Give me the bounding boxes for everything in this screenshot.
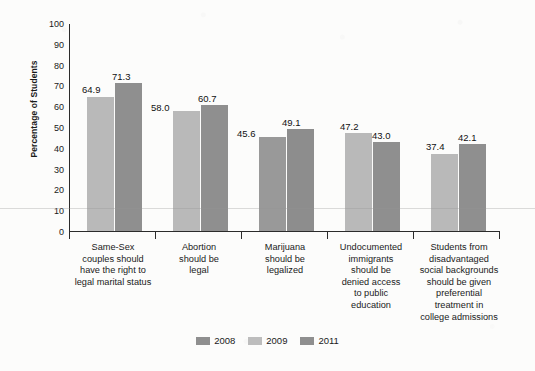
bar-group-undocumented-immigrants: 47.2 43.0	[328, 24, 414, 231]
category-line: legal marital status	[62, 277, 164, 289]
y-tick-80: 80	[36, 61, 64, 70]
bar-value-2009: 37.4	[426, 142, 445, 152]
bar-value-2011: 60.7	[198, 94, 217, 104]
x-axis-tick-2	[241, 232, 242, 239]
plot-area: 64.9 71.3 58.0 60.7 45.6 49.1 47.2 43.0	[70, 24, 500, 231]
bar-group-disadvantaged-students: 37.4 42.1	[414, 24, 500, 231]
bar-2009[interactable]	[173, 111, 200, 231]
category-line: preferential	[403, 288, 515, 300]
category-line: Abortion	[150, 242, 248, 254]
legend-label: 2008	[214, 336, 235, 346]
y-tick-50: 50	[36, 124, 64, 133]
bar-value-2009: 58.0	[151, 103, 170, 113]
legend-label: 2009	[266, 336, 287, 346]
category-line: couples should	[62, 254, 164, 266]
bar-value-2009: 47.2	[340, 122, 359, 132]
y-tick-90: 90	[36, 40, 64, 49]
category-line: disadvantaged	[403, 254, 515, 266]
category-line: Students from	[403, 242, 515, 254]
category-label-disadvantaged-students: Students from disadvantaged social backg…	[403, 242, 515, 323]
y-tick-70: 70	[36, 82, 64, 91]
bar-2009[interactable]	[259, 137, 286, 231]
x-axis-line	[69, 231, 500, 232]
bar-2011[interactable]	[373, 142, 400, 231]
y-tick-100: 100	[36, 20, 64, 29]
bar-group-same-sex-marriage: 64.9 71.3	[70, 24, 156, 231]
bar-value-2009: 64.9	[82, 85, 101, 95]
bar-value-2011: 42.1	[458, 133, 477, 143]
bar-2011[interactable]	[201, 105, 228, 231]
bar-2009[interactable]	[431, 154, 458, 231]
legend-swatch-icon	[196, 337, 210, 345]
bar-2011[interactable]	[459, 144, 486, 231]
legend-item-2011[interactable]: 2011	[300, 336, 338, 346]
category-label-abortion: Abortion should be legal	[150, 242, 248, 277]
bar-2009[interactable]	[87, 97, 114, 231]
x-axis-category-labels: Same-Sex couples should have the right t…	[70, 242, 500, 342]
y-tick-0: 0	[36, 228, 64, 237]
bar-2009[interactable]	[345, 133, 372, 231]
category-line: should be given	[403, 277, 515, 289]
category-line: treatment in	[403, 300, 515, 312]
x-axis-tick-3	[327, 232, 328, 239]
y-axis-tick-labels: 100 90 80 70 60 50 40 30 20 10 0	[36, 0, 64, 240]
x-axis-tick-1	[155, 232, 156, 239]
y-tick-40: 40	[36, 144, 64, 153]
legend-item-2009[interactable]: 2009	[248, 336, 287, 346]
x-axis-tick-5	[499, 232, 500, 239]
category-line: Same-Sex	[62, 242, 164, 254]
category-line: should be	[150, 254, 248, 266]
category-line: have the right to	[62, 265, 164, 277]
bar-value-2011: 43.0	[372, 131, 391, 141]
legend-label: 2011	[318, 336, 338, 346]
category-line: college admissions	[403, 312, 515, 324]
x-axis-tick-4	[413, 232, 414, 239]
bar-2011[interactable]	[115, 83, 142, 231]
legend-swatch-icon	[248, 337, 262, 345]
bar-value-2011: 71.3	[112, 72, 131, 82]
grouped-bar-chart: Percentage of Students 100 90 80 70 60 5…	[0, 0, 535, 371]
category-label-same-sex-marriage: Same-Sex couples should have the right t…	[62, 242, 164, 288]
legend-swatch-icon	[300, 337, 314, 345]
bar-group-abortion: 58.0 60.7	[156, 24, 242, 231]
chart-legend: 2008 2009 2011	[0, 336, 535, 346]
y-tick-10: 10	[36, 207, 64, 216]
category-line: social backgrounds	[403, 265, 515, 277]
bar-value-2009: 45.6	[237, 129, 256, 139]
legend-item-2008[interactable]: 2008	[196, 336, 235, 346]
bar-2011[interactable]	[287, 129, 314, 231]
x-axis-tick-0	[69, 232, 70, 239]
bar-value-2011: 49.1	[282, 118, 301, 128]
y-tick-20: 20	[36, 186, 64, 195]
category-line: legal	[150, 265, 248, 277]
y-tick-30: 30	[36, 165, 64, 174]
bar-group-marijuana: 45.6 49.1	[242, 24, 328, 231]
y-tick-60: 60	[36, 103, 64, 112]
